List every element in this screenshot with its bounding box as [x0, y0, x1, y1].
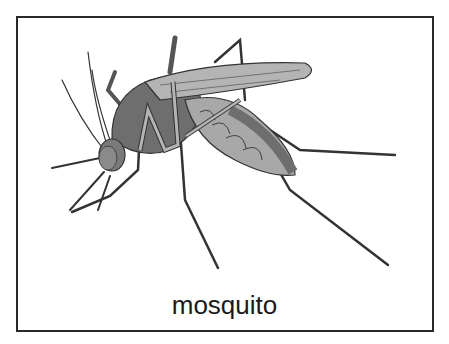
caption-label: mosquito — [0, 290, 449, 321]
